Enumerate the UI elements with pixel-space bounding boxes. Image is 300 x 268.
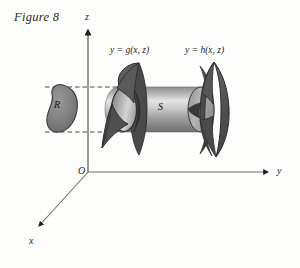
surface-equation-h: y = h(x, z): [185, 45, 224, 55]
surface-equation-g: y = g(x, z): [110, 45, 149, 55]
region-R-blob: [47, 85, 78, 133]
axis-label-y: y: [277, 165, 281, 176]
figure-container: Figure 8 z y x O R S y = g(x, z) y = h(x…: [0, 0, 300, 268]
solid-S-group: [102, 62, 229, 157]
region-label-R: R: [54, 99, 60, 110]
solid-label-S: S: [158, 101, 163, 112]
region-R-shape: [47, 85, 78, 133]
figure-illustration: [0, 0, 300, 268]
axis-label-x: x: [29, 235, 33, 246]
origin-label: O: [78, 165, 85, 176]
figure-caption: Figure 8: [14, 10, 59, 25]
surface-h-sheet: [214, 62, 229, 157]
axis-label-z: z: [85, 11, 89, 22]
x-axis: [39, 172, 88, 226]
